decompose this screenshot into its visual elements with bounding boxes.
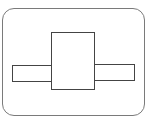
center-block — [51, 32, 95, 90]
right-bar — [94, 64, 135, 81]
left-bar — [12, 65, 52, 82]
